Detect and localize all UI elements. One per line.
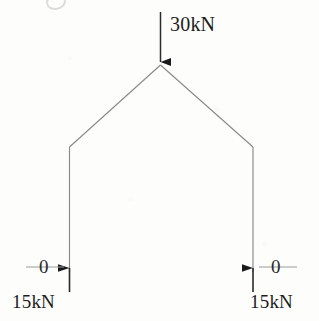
frame-member-right-rafter [161,65,254,147]
reaction-label-right: 15kN [250,292,293,311]
frame-member-left-rafter [70,65,161,147]
applied-load-label: 30kN [170,14,215,34]
moment-label-left: 0 [39,257,49,276]
reaction-label-left: 15kN [12,292,55,311]
frame-diagram-canvas: 30kN 0 0 15kN 15kN [0,0,319,321]
moment-label-right: 0 [271,257,281,276]
